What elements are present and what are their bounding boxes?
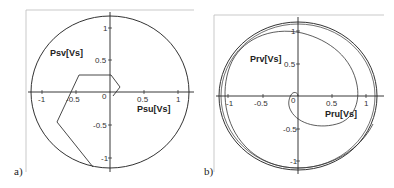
- x-tick-label: -0.5: [254, 99, 268, 108]
- x-tick-label: 1: [176, 95, 181, 104]
- panel-a: -1 -0.5 0 0.5 1 1 0.5 -0.5 -1 Psv[Vs] Ps…: [14, 10, 194, 178]
- x-tick-label: 1: [364, 99, 369, 108]
- y-tick-label: -0.5: [283, 125, 297, 134]
- spiral-trajectory: [225, 31, 373, 168]
- y-tick-label: -0.5: [93, 121, 107, 130]
- x-tick-label: 0.5: [137, 95, 149, 104]
- panel-b: -1 -0.5 0 0.5 1 1 0.5 -0.5 -1 Prv[Vs] Pr…: [204, 15, 384, 178]
- panel-label: a): [14, 165, 23, 178]
- y-axis-label: Psv[Vs]: [50, 48, 83, 58]
- x-axis-label: Pru[Vs]: [325, 109, 357, 119]
- x-tick-label: -0.5: [66, 95, 80, 104]
- x-tick-label: -1: [38, 95, 46, 104]
- x-axis-label: Psu[Vs]: [137, 104, 171, 114]
- y-tick-label: 0.5: [284, 60, 296, 69]
- y-tick-label: 1: [291, 27, 296, 36]
- x-tick-label: 0.5: [326, 99, 338, 108]
- figure: -1 -0.5 0 0.5 1 1 0.5 -0.5 -1 Psv[Vs] Ps…: [0, 0, 394, 188]
- y-tick-label: -1: [101, 154, 109, 163]
- origin-label: 0: [291, 96, 296, 105]
- x-tick-label: -1: [226, 99, 234, 108]
- panel-label: b): [204, 165, 214, 178]
- y-tick-label: 0.5: [95, 56, 107, 65]
- origin-label: 0: [102, 92, 107, 101]
- polygon-trajectory: [57, 75, 120, 167]
- y-tick-label: -1: [290, 157, 298, 166]
- y-axis-label: Prv[Vs]: [250, 54, 282, 64]
- y-tick-label: 1: [103, 24, 108, 33]
